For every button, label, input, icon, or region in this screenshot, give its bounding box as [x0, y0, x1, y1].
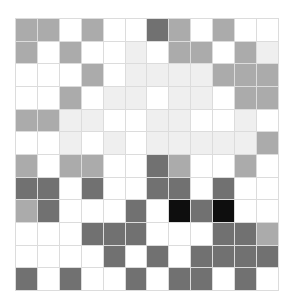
board-cell[interactable]	[147, 64, 169, 87]
board-cell[interactable]	[126, 200, 148, 223]
board-cell[interactable]	[169, 155, 191, 178]
board-cell[interactable]	[104, 223, 126, 246]
board-cell[interactable]	[235, 268, 257, 291]
board-cell[interactable]	[126, 178, 148, 201]
board-cell[interactable]	[38, 132, 60, 155]
board-cell[interactable]	[60, 64, 82, 87]
board-cell[interactable]	[60, 42, 82, 65]
board-cell[interactable]	[38, 110, 60, 133]
board-cell[interactable]	[191, 155, 213, 178]
board-cell[interactable]	[126, 223, 148, 246]
board-cell[interactable]	[147, 268, 169, 291]
board-cell[interactable]	[16, 200, 38, 223]
board-cell[interactable]	[16, 87, 38, 110]
board-cell[interactable]	[147, 19, 169, 42]
board-cell[interactable]	[104, 200, 126, 223]
board-cell[interactable]	[82, 246, 104, 269]
board-cell[interactable]	[126, 268, 148, 291]
board-cell[interactable]	[38, 268, 60, 291]
board-cell[interactable]	[235, 42, 257, 65]
board-cell[interactable]	[82, 64, 104, 87]
board-cell[interactable]	[147, 223, 169, 246]
board-cell[interactable]	[213, 155, 235, 178]
board-cell[interactable]	[257, 132, 279, 155]
board-cell[interactable]	[82, 19, 104, 42]
board-cell[interactable]	[126, 42, 148, 65]
board-cell[interactable]	[169, 246, 191, 269]
board-cell[interactable]	[257, 155, 279, 178]
board-cell[interactable]	[235, 178, 257, 201]
board-cell[interactable]	[104, 19, 126, 42]
board-cell[interactable]	[213, 132, 235, 155]
board-cell[interactable]	[169, 19, 191, 42]
board-cell[interactable]	[213, 110, 235, 133]
board-cell[interactable]	[82, 132, 104, 155]
board-cell[interactable]	[82, 268, 104, 291]
board-cell[interactable]	[60, 223, 82, 246]
board-cell[interactable]	[16, 155, 38, 178]
board-cell[interactable]	[257, 110, 279, 133]
board-cell[interactable]	[60, 246, 82, 269]
board-cell[interactable]	[169, 223, 191, 246]
board-cell[interactable]	[16, 132, 38, 155]
board-cell[interactable]	[235, 200, 257, 223]
board-cell[interactable]	[213, 87, 235, 110]
board-cell[interactable]	[82, 110, 104, 133]
board-cell[interactable]	[16, 268, 38, 291]
board-cell[interactable]	[38, 19, 60, 42]
board-cell[interactable]	[191, 268, 213, 291]
board-cell[interactable]	[126, 155, 148, 178]
board-cell[interactable]	[191, 223, 213, 246]
board-cell[interactable]	[257, 42, 279, 65]
board-cell[interactable]	[257, 19, 279, 42]
board-cell[interactable]	[104, 132, 126, 155]
board-cell[interactable]	[257, 87, 279, 110]
board-cell[interactable]	[82, 87, 104, 110]
board-cell[interactable]	[60, 110, 82, 133]
board-cell[interactable]	[191, 42, 213, 65]
board-cell[interactable]	[104, 42, 126, 65]
board-cell[interactable]	[60, 132, 82, 155]
board-cell[interactable]	[213, 19, 235, 42]
board-cell[interactable]	[16, 64, 38, 87]
board-cell[interactable]	[104, 64, 126, 87]
board-cell[interactable]	[257, 64, 279, 87]
board-cell[interactable]	[257, 178, 279, 201]
board-cell[interactable]	[16, 223, 38, 246]
board-cell[interactable]	[82, 42, 104, 65]
board-cell[interactable]	[169, 268, 191, 291]
board-cell[interactable]	[38, 200, 60, 223]
board-cell[interactable]	[60, 87, 82, 110]
board-cell[interactable]	[191, 200, 213, 223]
board-cell[interactable]	[191, 87, 213, 110]
board-cell[interactable]	[16, 178, 38, 201]
board-cell[interactable]	[104, 246, 126, 269]
board-cell[interactable]	[126, 19, 148, 42]
board-cell[interactable]	[235, 19, 257, 42]
board-cell[interactable]	[235, 223, 257, 246]
board-cell[interactable]	[126, 246, 148, 269]
board-cell[interactable]	[147, 42, 169, 65]
board-cell[interactable]	[147, 200, 169, 223]
board-cell[interactable]	[126, 110, 148, 133]
board-cell[interactable]	[191, 178, 213, 201]
board-cell[interactable]	[169, 110, 191, 133]
board-cell[interactable]	[38, 87, 60, 110]
board-cell[interactable]	[235, 87, 257, 110]
board-cell[interactable]	[147, 178, 169, 201]
board-cell[interactable]	[38, 178, 60, 201]
board-cell[interactable]	[38, 64, 60, 87]
board-cell[interactable]	[104, 87, 126, 110]
board-cell[interactable]	[235, 155, 257, 178]
board-cell[interactable]	[82, 155, 104, 178]
board-cell[interactable]	[235, 64, 257, 87]
board-cell[interactable]	[169, 200, 191, 223]
board-cell[interactable]	[104, 155, 126, 178]
board-cell[interactable]	[126, 87, 148, 110]
board-cell[interactable]	[257, 200, 279, 223]
board-cell[interactable]	[16, 110, 38, 133]
board-cell[interactable]	[147, 132, 169, 155]
board-cell[interactable]	[126, 132, 148, 155]
board-cell[interactable]	[60, 19, 82, 42]
board-cell[interactable]	[147, 155, 169, 178]
